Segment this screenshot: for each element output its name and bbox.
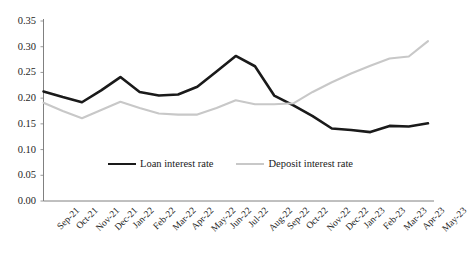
legend-swatch-loan-icon — [108, 163, 136, 165]
legend-label-deposit: Deposit interest rate — [268, 158, 353, 169]
series-lines — [44, 41, 429, 132]
y-tick-label: 0.30 — [6, 42, 36, 53]
y-tick-label: 0.35 — [6, 16, 36, 27]
y-tick-label: 0.20 — [6, 93, 36, 104]
legend-entry-loan: Loan interest rate — [108, 158, 213, 169]
chart-legend: Loan interest rate Deposit interest rate — [108, 158, 369, 169]
y-tick-label: 0.05 — [6, 170, 36, 181]
legend-entry-deposit: Deposit interest rate — [236, 158, 353, 169]
y-tick-label: 0.00 — [6, 196, 36, 207]
legend-label-loan: Loan interest rate — [140, 158, 213, 169]
legend-swatch-deposit-icon — [236, 163, 264, 165]
series-line-loan — [44, 56, 429, 132]
y-tick-label: 0.25 — [6, 67, 36, 78]
y-tick-label: 0.15 — [6, 119, 36, 130]
series-line-deposit — [44, 41, 429, 118]
y-tick-label: 0.10 — [6, 145, 36, 156]
